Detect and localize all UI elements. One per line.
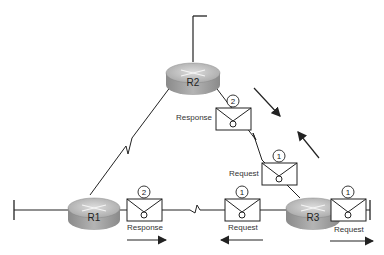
sequence-number: 1 xyxy=(273,151,285,162)
sequence-number: 2 xyxy=(138,187,150,198)
router-label-r1: R1 xyxy=(79,213,109,223)
serial-link-r1-r2 xyxy=(90,82,174,195)
message-label: Request xyxy=(228,224,258,232)
router-label-r3: R3 xyxy=(298,213,328,223)
arrow-up-left xyxy=(298,132,319,158)
sequence-number: 1 xyxy=(342,187,354,198)
network-diagram: R2 R1 R3 2 1 2 1 1 Response Request Resp… xyxy=(0,0,384,255)
arrow-down-right xyxy=(254,88,280,116)
router-label-r2: R2 xyxy=(178,78,208,88)
sequence-number: 1 xyxy=(236,187,248,198)
message-label: Request xyxy=(334,226,364,234)
message-label: Request xyxy=(229,170,259,178)
message-label: Response xyxy=(127,224,163,232)
message-label: Response xyxy=(176,114,212,122)
sequence-number: 2 xyxy=(227,96,239,107)
r2-lan-segment xyxy=(193,16,207,62)
r1-lan-segment xyxy=(14,200,70,220)
